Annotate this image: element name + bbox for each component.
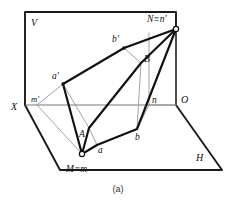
projector-mprime-aprime [37, 84, 63, 105]
label-origin-o: O [181, 94, 188, 105]
label-b-top: b [135, 132, 140, 142]
label-n-top: n [152, 95, 157, 105]
point-marker-N [173, 26, 178, 31]
true-line-M-A-B-N [82, 29, 176, 154]
horizontal-plane-outline [25, 105, 222, 170]
label-trace-m: M≡m [65, 164, 87, 174]
label-point-a: A [78, 129, 85, 139]
point-marker-aprime [61, 82, 64, 85]
point-marker-M [79, 151, 84, 156]
label-a-front: a' [52, 71, 60, 81]
figure-caption: (a) [113, 184, 124, 194]
figure-container: V H O X N≡n' M≡m b' a' m' n b a A B (a) [0, 0, 236, 202]
label-a-top: a [98, 145, 103, 155]
vertical-plane-outline [25, 12, 176, 105]
label-trace-n: N≡n' [146, 14, 167, 24]
point-marker-bprime [122, 46, 125, 49]
label-plane-v: V [31, 17, 39, 28]
projector-aprime-A [63, 84, 89, 128]
label-axis-x: X [10, 101, 18, 112]
label-m-front: m' [31, 94, 39, 104]
label-point-b: B [144, 54, 150, 64]
label-plane-h: H [195, 152, 204, 163]
projector-bprime-B [124, 48, 141, 63]
label-b-front: b' [112, 34, 120, 44]
top-view-line-m-a-b-n [82, 29, 176, 154]
projector-A-a [89, 128, 97, 145]
geometry-diagram: V H O X N≡n' M≡m b' a' m' n b a A B (a) [0, 0, 236, 202]
